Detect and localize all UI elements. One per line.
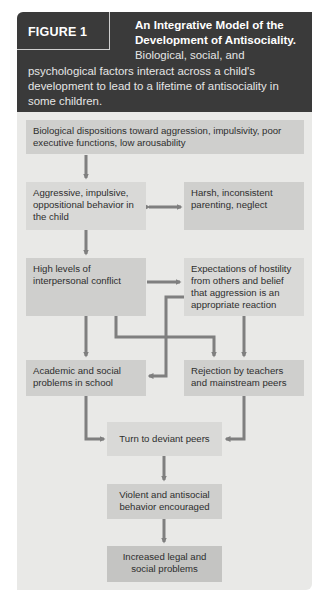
node-legal-problems: Increased legal and social problems bbox=[107, 546, 222, 582]
node-biological: Biological dispositions toward aggressio… bbox=[26, 120, 304, 154]
node-rejection: Rejection by teachers and mainstream pee… bbox=[184, 360, 304, 396]
node-aggressive-behavior: Aggressive, impulsive, oppositional beha… bbox=[26, 182, 146, 230]
node-violent-behavior: Violent and antisocial behavior encourag… bbox=[107, 484, 222, 519]
figure-panel: FIGURE 1 An Integrative Model of the Dev… bbox=[17, 12, 312, 590]
node-deviant-peers: Turn to deviant peers bbox=[107, 422, 222, 456]
node-academic-problems: Academic and social problems in school bbox=[26, 360, 146, 396]
node-hostility-expectations: Expectations of hostility from others an… bbox=[184, 258, 304, 316]
node-harsh-parenting: Harsh, inconsistent parenting, neglect bbox=[184, 182, 304, 230]
node-interpersonal-conflict: High levels of interpersonal conflict bbox=[26, 258, 146, 316]
